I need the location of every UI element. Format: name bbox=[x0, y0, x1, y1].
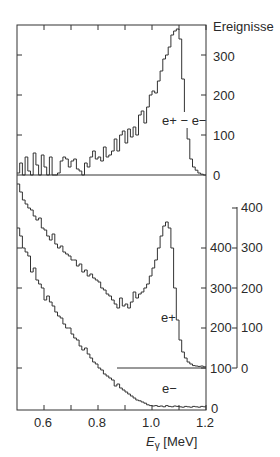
histogram-e-minus bbox=[17, 228, 206, 407]
right-ytick-200: 200 bbox=[241, 281, 263, 296]
right-ytick-300: 300 bbox=[241, 240, 263, 255]
xtick-1.2: 1.2 bbox=[196, 415, 214, 430]
top-ytick-100: 100 bbox=[213, 128, 235, 143]
plot-frame bbox=[17, 25, 206, 410]
right-ytick-0: 0 bbox=[241, 361, 248, 376]
xtick-0.8: 0.8 bbox=[88, 415, 106, 430]
axis-ticks bbox=[17, 25, 237, 410]
histogram-e-plus bbox=[17, 184, 206, 367]
e-minus-label: e− bbox=[162, 381, 177, 396]
top-series-label: e+ − e− bbox=[162, 113, 206, 128]
top-ytick-200: 200 bbox=[213, 88, 235, 103]
y-axis-label: Ereignisse bbox=[213, 19, 274, 34]
top-ytick-0: 0 bbox=[213, 168, 220, 183]
histogram-e-plus-minus-e-minus bbox=[17, 29, 206, 175]
chart-figure: Ereignisse 300 200 100 0 400 300 200 100… bbox=[0, 0, 280, 457]
left-ytick-400: 400 bbox=[210, 240, 232, 255]
e-plus-label: e+ bbox=[161, 310, 176, 325]
top-ytick-300: 300 bbox=[213, 49, 235, 64]
xtick-0.6: 0.6 bbox=[34, 415, 52, 430]
right-ytick-400: 400 bbox=[241, 200, 263, 215]
left-ytick-0: 0 bbox=[211, 401, 218, 416]
histograms bbox=[17, 29, 206, 407]
right-ytick-100: 100 bbox=[241, 320, 263, 335]
xtick-1.0: 1.0 bbox=[142, 415, 160, 430]
left-ytick-100: 100 bbox=[210, 361, 232, 376]
x-axis-label: Eγ [MeV] bbox=[146, 434, 197, 451]
left-ytick-300: 300 bbox=[210, 281, 232, 296]
left-ytick-200: 200 bbox=[210, 320, 232, 335]
